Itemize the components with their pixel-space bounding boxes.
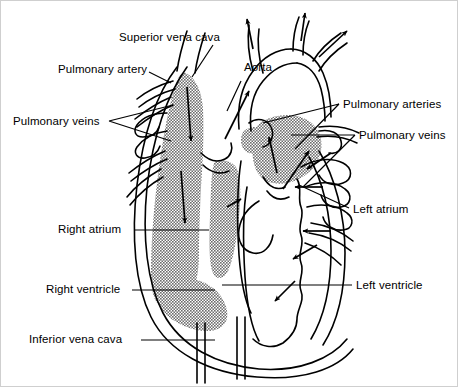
- label-left-ventricle: Left ventricle: [356, 279, 423, 291]
- label-right-atrium: Right atrium: [58, 223, 121, 235]
- heart-diagram-svg: [1, 1, 458, 387]
- label-pulmonary-veins-right: Pulmonary veins: [359, 129, 446, 141]
- heart-diagram-page: Superior vena cava Pulmonary artery Aort…: [0, 0, 458, 387]
- label-pulmonary-artery: Pulmonary artery: [58, 63, 147, 75]
- label-pulmonary-veins-left: Pulmonary veins: [13, 115, 100, 127]
- label-right-ventricle: Right ventricle: [46, 283, 120, 295]
- label-pulmonary-arteries-right: Pulmonary arteries: [343, 98, 441, 110]
- label-superior-vena-cava: Superior vena cava: [119, 31, 220, 43]
- label-aorta: Aorta: [244, 61, 272, 73]
- label-left-atrium: Left atrium: [353, 203, 408, 215]
- label-inferior-vena-cava: Inferior vena cava: [29, 333, 122, 345]
